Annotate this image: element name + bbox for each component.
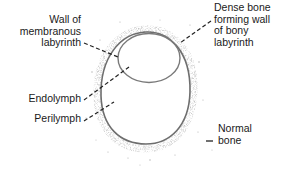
leader-endolymph: [84, 67, 129, 100]
label-perilymph: Perilymph: [34, 113, 81, 125]
label-dense-bone: Dense bone forming wall of bony labyrint…: [214, 2, 271, 48]
membranous-labyrinth-outline: [118, 34, 180, 83]
bony-labyrinth-outline: [101, 32, 190, 144]
label-wall-membranous: Wall of membranous labyrinth: [20, 14, 81, 49]
leader-dense-bone: [180, 21, 211, 43]
label-endolymph: Endolymph: [28, 93, 81, 105]
labyrinth-diagram: Wall of membranous labyrinth Dense bone …: [0, 0, 295, 172]
label-normal-bone: Normal bone: [218, 123, 252, 146]
dense-bone-stipple: [97, 29, 194, 149]
